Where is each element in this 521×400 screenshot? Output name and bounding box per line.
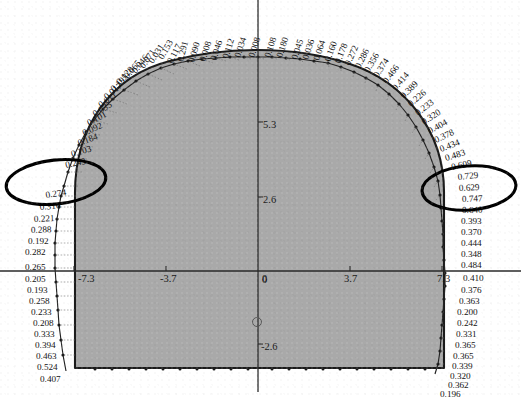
deformation-value-label: 0.333 bbox=[34, 329, 55, 339]
deformation-value-label: 0.376 bbox=[461, 285, 482, 295]
deformation-value-label: 0.265 bbox=[25, 262, 46, 272]
deformation-value-label: 0.200 bbox=[457, 307, 478, 317]
y-tick-label: 5.3 bbox=[263, 119, 276, 130]
deformation-value-label: 0.365 bbox=[455, 340, 476, 350]
deformation-value-label: 0.444 bbox=[461, 238, 482, 248]
y-tick-label: -2.6 bbox=[261, 341, 278, 352]
deformation-value-label: 0.747 bbox=[462, 193, 483, 204]
x-tick-label: -3.7 bbox=[160, 273, 177, 284]
deformation-value-label: 0.363 bbox=[459, 296, 480, 306]
deformation-value-label: 0.365 bbox=[453, 351, 474, 361]
deformation-value-label: 0.410 bbox=[463, 273, 484, 283]
x-tick-label: 3.7 bbox=[344, 273, 357, 284]
deformation-value-label: 0.282 bbox=[25, 247, 46, 257]
deformation-value-label: 0.524 bbox=[37, 362, 58, 372]
deformation-value-label: 0.233 bbox=[31, 307, 52, 317]
deformation-value-label: 0.348 bbox=[461, 249, 482, 259]
deformation-value-label: 0.463 bbox=[36, 351, 57, 361]
x-tick-label: -7.3 bbox=[78, 273, 95, 284]
deformation-value-label: 0.339 bbox=[452, 361, 473, 371]
deformation-value-label: 0.394 bbox=[35, 340, 56, 350]
deformation-value-label: 0.221 bbox=[34, 213, 56, 224]
deformation-value-label: 0.193 bbox=[27, 285, 48, 295]
x-tick-label: 7.3 bbox=[437, 273, 450, 284]
tunnel-section-fill bbox=[75, 50, 444, 368]
deformation-value-label: 0.208 bbox=[33, 318, 54, 328]
deformation-value-label: 0.258 bbox=[29, 296, 50, 306]
figure-canvas: -7.3 -3.7 0 3.7 7.3 5.3 2.6 0 -2.6 0.008… bbox=[0, 0, 521, 400]
deformation-value-label: 0.370 bbox=[461, 227, 482, 237]
deformation-value-label: 0.192 bbox=[28, 236, 49, 246]
deformation-value-label: 0.407 bbox=[40, 374, 61, 384]
tunnel-section-chart: -7.3 -3.7 0 3.7 7.3 5.3 2.6 0 -2.6 0.008… bbox=[0, 0, 521, 400]
deformation-value-label: 0.729 bbox=[457, 170, 479, 182]
y-tick-label: 0 bbox=[262, 274, 267, 285]
deformation-value-label: 0.242 bbox=[457, 318, 478, 328]
deformation-value-label: 0.331 bbox=[456, 329, 477, 339]
deformation-value-label: 0.196 bbox=[440, 389, 461, 399]
deformation-value-label: 0.629 bbox=[459, 182, 481, 193]
deformation-value-label: 0.316 bbox=[39, 200, 61, 212]
deformation-value-label: 0.484 bbox=[461, 260, 482, 270]
deformation-value-label: 0.205 bbox=[25, 274, 46, 284]
deformation-value-label: 0.393 bbox=[461, 216, 482, 226]
deformation-value-label: 0.288 bbox=[31, 224, 52, 235]
y-tick-label: 2.6 bbox=[263, 194, 276, 205]
deformation-value-label: 0.274 bbox=[45, 187, 67, 200]
